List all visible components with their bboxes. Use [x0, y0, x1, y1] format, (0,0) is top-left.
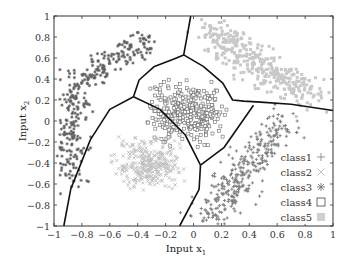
boundary-line-2 — [64, 97, 134, 226]
x-tick-label: 1 — [330, 229, 336, 240]
y-axis-label-subscript: 2 — [23, 101, 31, 105]
legend-label: class2 — [281, 167, 312, 178]
legend-item-class4: class4 — [281, 197, 325, 208]
y-tick-label: −0.2 — [27, 137, 50, 148]
x-tick-label: −0.4 — [126, 229, 149, 240]
x-tick-label: 0.6 — [270, 229, 285, 240]
boundary-line-1 — [184, 55, 333, 111]
legend-label: class5 — [281, 212, 312, 223]
legend: class1class2class3class4class5 — [281, 148, 330, 224]
x-tick-label: −0.6 — [98, 229, 121, 240]
y-tick-label: −0.4 — [27, 158, 50, 169]
y-tick-label: −0.8 — [27, 200, 50, 211]
x-tick-label: 0.8 — [298, 229, 313, 240]
y-tick-label: 0.2 — [35, 95, 50, 106]
y-tick-label: 0 — [44, 116, 50, 127]
y-tick-label: 0.4 — [35, 74, 50, 85]
asterisk-marker-icon — [317, 183, 325, 191]
filled-square-marker-icon — [317, 213, 325, 221]
y-axis-label: Input x2 — [17, 101, 31, 142]
series-class2 — [110, 135, 186, 191]
y-tick-label: 1 — [44, 11, 50, 22]
y-tick-label: 0.6 — [35, 53, 50, 64]
y-tick-label: 0.8 — [35, 32, 50, 43]
x-tick-label: −0.8 — [70, 229, 93, 240]
x-tick-label: 0 — [190, 229, 196, 240]
x-tick-label: 0.4 — [242, 229, 257, 240]
legend-label: class4 — [281, 197, 312, 208]
scatter-chart: −1−0.8−0.6−0.4−0.200.20.40.60.81 −1−0.8−… — [0, 0, 351, 266]
y-tick-label: −1 — [36, 221, 50, 232]
boundary-line-4 — [180, 165, 201, 226]
y-tick-label: −0.6 — [27, 179, 50, 190]
legend-label: class1 — [281, 152, 312, 163]
x-tick-label: −0.2 — [154, 229, 177, 240]
open-square-marker-icon — [317, 198, 325, 206]
x-tick-label: 0.2 — [214, 229, 229, 240]
x-axis-label-subscript: 1 — [202, 249, 206, 257]
legend-item-class5: class5 — [281, 212, 325, 223]
x-axis-label: Input x1 — [166, 243, 207, 257]
legend-label: class3 — [281, 182, 312, 193]
